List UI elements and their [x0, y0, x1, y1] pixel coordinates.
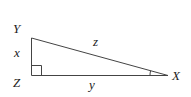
triangle-diagram: Y x Z z y X [0, 0, 191, 97]
vertex-label-y: Y [13, 21, 22, 36]
triangle-sides [32, 38, 169, 76]
vertex-label-x: X [171, 68, 181, 83]
side-label-z: z [92, 34, 98, 49]
side-yx [32, 38, 169, 76]
vertex-label-z: Z [13, 75, 21, 90]
side-label-y: y [87, 77, 95, 92]
right-angle-marker [32, 66, 42, 76]
angle-arc-x [150, 71, 151, 76]
side-label-x: x [13, 45, 20, 60]
